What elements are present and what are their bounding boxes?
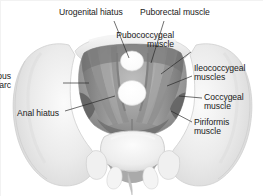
pelvic-floor-illustration [1, 1, 263, 196]
left-ischial-spine [86, 151, 107, 180]
urogenital-hiatus-opening [121, 51, 144, 71]
anal-hiatus-opening [118, 81, 146, 106]
sacrum [101, 131, 165, 171]
figure-frame: Urogenital hiatusPuborectal musclePuboco… [0, 0, 263, 196]
right-ischial-spine [158, 151, 180, 180]
